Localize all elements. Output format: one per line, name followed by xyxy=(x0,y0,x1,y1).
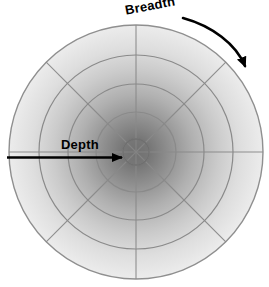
depth-label: Depth xyxy=(61,138,99,151)
diagram-canvas: Depth Breadth xyxy=(0,0,269,287)
polar-target-diagram xyxy=(0,0,269,287)
